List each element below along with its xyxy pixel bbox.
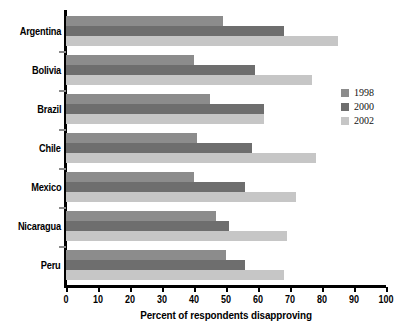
legend-swatch-icon xyxy=(341,103,349,111)
chart-legend: 199820002002 xyxy=(341,86,374,128)
y-tick xyxy=(59,207,66,209)
x-tick xyxy=(130,287,132,292)
y-tick xyxy=(59,90,66,92)
legend-item-2000: 2000 xyxy=(341,100,374,113)
bar-group xyxy=(66,55,386,85)
x-tick xyxy=(322,287,324,292)
x-tick-label: 30 xyxy=(149,294,176,305)
category-label-argentina: Argentina xyxy=(19,25,61,37)
bar xyxy=(66,104,264,114)
bar-group xyxy=(66,250,386,280)
x-tick xyxy=(354,287,356,292)
bar xyxy=(66,143,252,153)
x-tick xyxy=(226,287,228,292)
x-tick-label: 70 xyxy=(277,294,304,305)
category-label-chile: Chile xyxy=(39,142,61,154)
bar xyxy=(66,172,194,182)
x-axis-line xyxy=(64,285,386,288)
x-tick xyxy=(290,287,292,292)
legend-item-1998: 1998 xyxy=(341,86,374,99)
x-tick-label: 40 xyxy=(181,294,208,305)
bar-chart: ArgentinaBoliviaBrazilChileMexicoNicarag… xyxy=(0,0,395,329)
y-tick xyxy=(59,246,66,248)
category-label-brazil: Brazil xyxy=(37,103,61,115)
bar xyxy=(66,260,245,270)
category-label-bolivia: Bolivia xyxy=(32,64,61,76)
x-tick-label: 60 xyxy=(245,294,272,305)
x-tick xyxy=(162,287,164,292)
legend-swatch-icon xyxy=(341,89,349,97)
legend-swatch-icon xyxy=(341,117,349,125)
plot-area xyxy=(66,12,386,285)
bar-group xyxy=(66,211,386,241)
x-tick xyxy=(258,287,260,292)
bar xyxy=(66,153,316,163)
bar xyxy=(66,55,194,65)
bar xyxy=(66,65,255,75)
x-tick-label: 0 xyxy=(53,294,80,305)
x-tick-label: 80 xyxy=(309,294,336,305)
legend-item-2002: 2002 xyxy=(341,114,374,127)
category-label-nicaragua: Nicaragua xyxy=(18,220,61,232)
bar xyxy=(66,114,264,124)
x-tick-label: 90 xyxy=(341,294,368,305)
bar xyxy=(66,231,287,241)
x-tick xyxy=(66,287,68,292)
y-tick xyxy=(59,168,66,170)
bar-group xyxy=(66,16,386,46)
y-tick xyxy=(59,129,66,131)
bar xyxy=(66,26,284,36)
x-tick xyxy=(98,287,100,292)
bar xyxy=(66,250,226,260)
bar xyxy=(66,270,284,280)
bar xyxy=(66,192,296,202)
legend-label: 2002 xyxy=(354,116,374,126)
x-tick-label: 20 xyxy=(117,294,144,305)
category-label-mexico: Mexico xyxy=(31,181,61,193)
bar xyxy=(66,75,312,85)
bar xyxy=(66,94,210,104)
bar-group xyxy=(66,133,386,163)
x-tick-label: 50 xyxy=(213,294,240,305)
x-tick-label: 10 xyxy=(85,294,112,305)
bar xyxy=(66,211,216,221)
x-axis-title: Percent of respondents disapproving xyxy=(76,309,377,321)
bar xyxy=(66,221,229,231)
category-label-peru: Peru xyxy=(41,259,61,271)
bar-group xyxy=(66,94,386,124)
bar-group xyxy=(66,172,386,202)
bar xyxy=(66,36,338,46)
legend-label: 2000 xyxy=(354,102,374,112)
y-tick xyxy=(59,51,66,53)
x-tick-label: 100 xyxy=(373,294,395,305)
x-tick xyxy=(194,287,196,292)
bar xyxy=(66,133,197,143)
bar xyxy=(66,182,245,192)
legend-label: 1998 xyxy=(354,88,374,98)
x-tick xyxy=(386,287,388,292)
bar xyxy=(66,16,223,26)
